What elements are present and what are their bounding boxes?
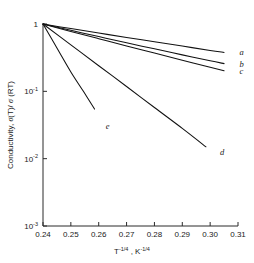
curve-label-e: e [106, 121, 110, 131]
curve-label-c: c [239, 66, 243, 76]
y-axis-ticks [43, 24, 47, 226]
y-tick-label: 10-1 [24, 86, 38, 97]
curve-label-a: a [239, 47, 243, 57]
curve-e [43, 24, 95, 109]
y-axis-tick-labels: 110-110-210-3 [24, 20, 38, 231]
data-curves [43, 24, 224, 147]
x-tick-label: 0.29 [174, 230, 190, 239]
conductivity-vs-inverse-temperature-chart: 0.240.250.260.270.280.290.300.31 110-110… [0, 0, 254, 263]
figure-container: 0.240.250.260.270.280.290.300.31 110-110… [0, 0, 254, 263]
x-axis-title-text: T-1/4 , K-1/4 [114, 246, 150, 257]
axes [43, 24, 238, 226]
x-tick-label: 0.26 [91, 230, 107, 239]
curve-label-d: d [220, 147, 225, 157]
x-tick-label: 0.30 [202, 230, 218, 239]
x-axis-title: T-1/4 , K-1/4 [114, 246, 150, 257]
x-axis-tick-labels: 0.240.250.260.270.280.290.300.31 [35, 230, 246, 239]
y-axis-title: Conductivity, σ(T)/ σ (RT) [6, 81, 15, 169]
x-tick-label: 0.24 [35, 230, 51, 239]
x-tick-label: 0.28 [147, 230, 163, 239]
y-tick-label: 1 [34, 20, 39, 29]
x-tick-label: 0.25 [63, 230, 79, 239]
x-tick-label: 0.27 [119, 230, 135, 239]
x-tick-label: 0.31 [230, 230, 246, 239]
curve-c [43, 24, 224, 71]
y-axis-title-text: Conductivity, σ(T)/ σ (RT) [6, 81, 15, 169]
x-axis-ticks [43, 222, 238, 226]
y-tick-label: 10-2 [24, 153, 38, 164]
